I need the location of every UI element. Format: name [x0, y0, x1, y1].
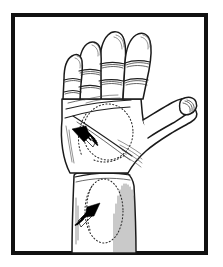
illustration-figure: [0, 0, 223, 267]
forearm-outline: [72, 173, 136, 253]
palm-illustration-svg: [0, 0, 223, 267]
